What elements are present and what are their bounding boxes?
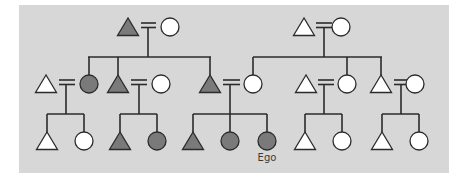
- paternal-aunt-circle-icon: [80, 75, 98, 93]
- uncle-wife-circle-icon: [152, 75, 170, 93]
- mother-circle-icon: [244, 75, 262, 93]
- sister-circle-icon: [221, 132, 239, 150]
- cousin-circle-icon: [148, 132, 166, 150]
- cousin-circle-icon: [333, 132, 351, 150]
- maternal-aunt-circle-icon: [338, 75, 356, 93]
- ego-label: Ego: [258, 152, 277, 163]
- cousin-circle-icon: [410, 132, 428, 150]
- maternal-grandmother-circle-icon: [332, 18, 350, 36]
- paternal-grandmother-circle-icon: [161, 18, 179, 36]
- cousin-circle-icon: [75, 132, 93, 150]
- maternal-uncle-wife-circle-icon: [406, 75, 424, 93]
- kinship-diagram: Ego: [0, 0, 467, 181]
- ego-circle-icon: [258, 132, 276, 150]
